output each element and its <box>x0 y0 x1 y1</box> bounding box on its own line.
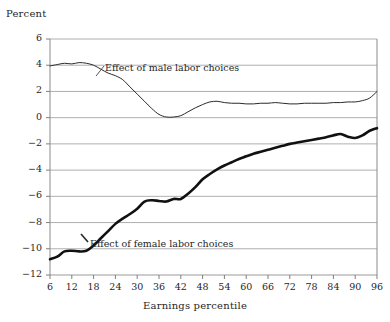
x-tick-label: 60 <box>234 281 258 292</box>
x-tick-label: 18 <box>82 281 106 292</box>
series-label-male: Effect of male labor choices <box>105 62 239 73</box>
x-tick-label: 84 <box>321 281 345 292</box>
x-tick-label: 42 <box>169 281 193 292</box>
y-tick-label: −10 <box>8 242 42 253</box>
leader-line <box>81 234 88 242</box>
plot-area <box>0 0 390 322</box>
series-label-female: Effect of female labor choices <box>90 238 233 249</box>
x-tick-label: 48 <box>191 281 215 292</box>
x-tick-label: 24 <box>103 281 127 292</box>
y-tick-label: −8 <box>8 216 42 227</box>
y-tick-label: 2 <box>8 84 42 95</box>
x-tick-label: 66 <box>256 281 280 292</box>
x-tick-label: 6 <box>38 281 62 292</box>
y-tick-label: −12 <box>8 268 42 279</box>
y-tick-label: 4 <box>8 58 42 69</box>
y-tick-label: −2 <box>8 137 42 148</box>
x-axis-title: Earnings percentile <box>0 300 390 311</box>
chart-container: Percent 6420−2−4−6−8−10−12 6121824303642… <box>0 0 390 322</box>
x-tick-label: 36 <box>147 281 171 292</box>
x-tick-label: 96 <box>365 281 389 292</box>
y-tick-label: 6 <box>8 32 42 43</box>
x-tick-label: 78 <box>300 281 324 292</box>
x-tick-label: 54 <box>212 281 236 292</box>
y-tick-label: −6 <box>8 189 42 200</box>
data-series-group <box>50 63 377 260</box>
x-tick-label: 90 <box>343 281 367 292</box>
x-tick-label: 30 <box>125 281 149 292</box>
x-tick-label: 72 <box>278 281 302 292</box>
x-tick-label: 12 <box>60 281 84 292</box>
y-tick-label: 0 <box>8 111 42 122</box>
y-tick-label: −4 <box>8 163 42 174</box>
